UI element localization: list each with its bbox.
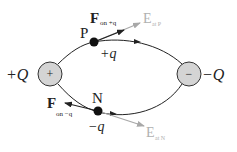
point-p-label: P	[80, 25, 88, 41]
positive-charge-symbol: +	[47, 67, 54, 81]
force-on-plus-q-subscript: on +q	[100, 19, 117, 27]
negative-charge-symbol: −	[186, 67, 193, 81]
force-on-plus-q-label: F	[90, 10, 99, 26]
field-line-upper	[58, 40, 182, 64]
test-charge-p-dot	[90, 38, 99, 47]
negative-charge-label: −Q	[202, 66, 225, 83]
force-on-minus-q-subscript: on −q	[56, 110, 73, 118]
test-charge-n-label: −q	[88, 119, 104, 134]
negative-source-charge: −	[177, 62, 201, 86]
field-at-n-subscript: at N	[155, 135, 166, 141]
positive-charge-label: +Q	[6, 66, 29, 83]
field-at-p-label: E	[143, 11, 152, 26]
point-n-label: N	[92, 90, 103, 106]
force-on-minus-q-label: F	[47, 95, 56, 111]
positive-source-charge: +	[38, 62, 62, 86]
field-line-lower	[58, 84, 182, 115]
test-charge-n-dot	[94, 107, 103, 116]
electric-field-diagram: + +Q − −Q P +q F on +q E at P N −q F on …	[0, 0, 237, 152]
test-charge-p-label: +q	[100, 46, 116, 61]
field-at-n-label: E	[146, 125, 155, 140]
field-at-p-subscript: at P	[152, 21, 162, 27]
